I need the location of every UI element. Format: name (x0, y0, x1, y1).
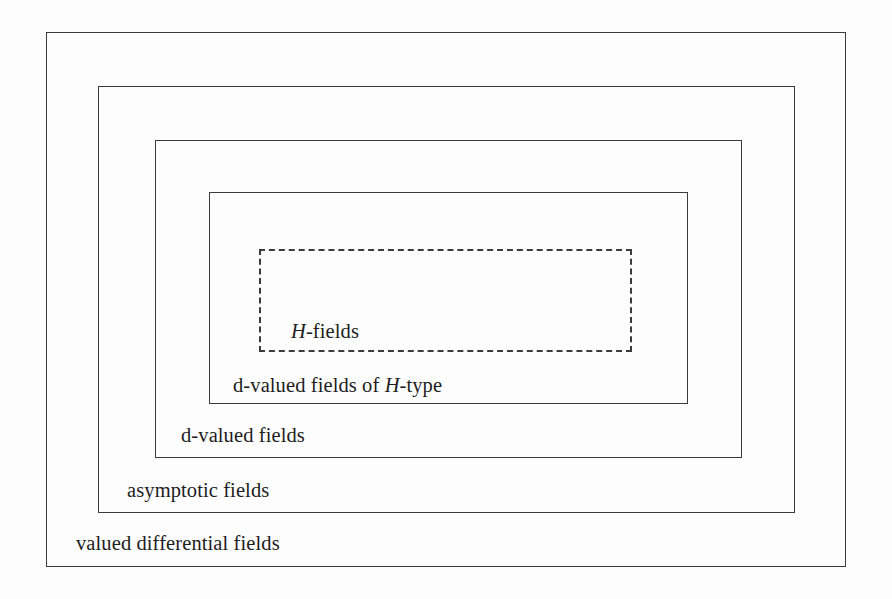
label-text-prefix: d-valued fields (181, 424, 305, 446)
label-text-prefix: valued differential fields (76, 532, 280, 554)
label-d-valued-fields: d-valued fields (181, 425, 305, 446)
nested-fields-diagram: valued differential fields asymptotic fi… (0, 0, 892, 599)
label-text-suffix: -type (400, 374, 443, 396)
label-text-prefix: d-valued fields of (233, 374, 385, 396)
label-d-valued-fields-of-h-type: d-valued fields of H-type (233, 375, 442, 396)
label-valued-differential-fields: valued differential fields (76, 533, 280, 554)
label-h-fields: H-fields (291, 321, 359, 342)
label-text-suffix: -fields (306, 320, 359, 342)
label-text-italic: H (385, 374, 400, 396)
label-asymptotic-fields: asymptotic fields (127, 480, 269, 501)
label-text-italic: H (291, 320, 306, 342)
label-text-prefix: asymptotic fields (127, 479, 269, 501)
